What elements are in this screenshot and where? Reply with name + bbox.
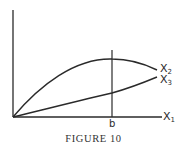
curve-x2 [13,59,157,117]
diagram-canvas [0,0,187,154]
x-axis-label: X1 [163,111,175,124]
curve-x3 [13,77,157,117]
x-axis-label-main: X [163,110,171,123]
x-axis-label-sub: 1 [171,116,175,124]
figure-caption: FIGURE 10 [0,133,187,144]
curve-x3-label: X3 [160,74,172,87]
curve-x3-label-sub: 3 [168,79,172,87]
figure-10: X2 X3 X1 b FIGURE 10 [0,0,187,154]
curve-x3-label-main: X [160,73,168,86]
b-tick-label: b [109,119,115,129]
